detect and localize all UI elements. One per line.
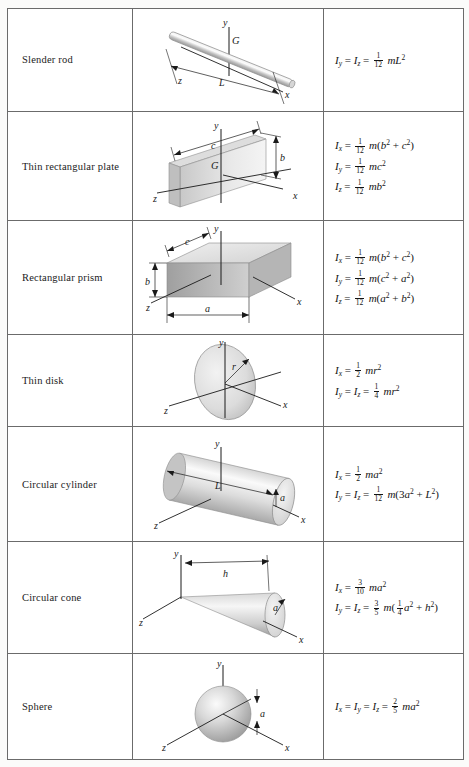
shape-name-label: Thin disk bbox=[8, 375, 132, 386]
formula-cell-circular-cone: Ix = 310 ma2 Iy = Iz = 35 m(14a2 + h2) bbox=[324, 542, 464, 654]
formula-line: Iz = 112 mb2 bbox=[335, 176, 459, 197]
svg-text:b: b bbox=[145, 276, 150, 287]
svg-text:y: y bbox=[214, 438, 220, 449]
formula-cell-rectangular-prism: Ix = 112 m(b2 + c2) Iy = 112 m(c2 + a2) … bbox=[324, 221, 464, 335]
shape-name-cell: Rectangular prism bbox=[8, 221, 133, 335]
figure-cell-thin-disk: y z x r bbox=[133, 335, 324, 427]
svg-text:y: y bbox=[213, 227, 219, 234]
shape-name-label: Sphere bbox=[8, 701, 132, 712]
svg-text:y: y bbox=[173, 548, 179, 559]
svg-text:y: y bbox=[216, 659, 222, 669]
formula-cell-slender-rod: Iy = Iz = 112 mL2 bbox=[324, 9, 464, 112]
figure-cell-circular-cylinder: y z x L a bbox=[133, 427, 324, 542]
svg-text:y: y bbox=[222, 17, 228, 28]
formula-line: Iy = 112 m(c2 + a2) bbox=[335, 268, 459, 289]
figure-cell-rectangular-prism: y z x c b bbox=[133, 221, 324, 335]
figure-cell-thin-rectangular-plate: y z x G c b bbox=[133, 111, 324, 220]
slender-rod-diagram: y z x G L bbox=[133, 14, 323, 106]
table-row: Sphere y z x bbox=[8, 653, 464, 759]
svg-text:y: y bbox=[213, 120, 219, 131]
svg-text:z: z bbox=[153, 520, 158, 531]
formula-line: Ix = 310 ma2 bbox=[335, 577, 459, 598]
shape-name-cell: Thin rectangular plate bbox=[8, 111, 133, 220]
svg-text:a: a bbox=[205, 303, 210, 314]
svg-text:r: r bbox=[232, 361, 236, 372]
svg-text:G: G bbox=[211, 160, 219, 171]
svg-text:x: x bbox=[300, 514, 306, 525]
table-row: Circular cylinder bbox=[8, 427, 464, 542]
svg-text:a: a bbox=[273, 602, 278, 613]
thin-rectangular-plate-diagram: y z x G c b bbox=[133, 117, 323, 215]
sphere-diagram: y z x a bbox=[133, 659, 323, 754]
shape-name-label: Circular cone bbox=[8, 592, 132, 603]
figure-cell-slender-rod: y z x G L bbox=[133, 9, 324, 112]
svg-text:z: z bbox=[161, 742, 166, 753]
shape-name-cell: Circular cone bbox=[8, 542, 133, 654]
svg-text:x: x bbox=[298, 634, 304, 645]
table-row: Slender rod y z x bbox=[8, 9, 464, 112]
svg-text:a: a bbox=[260, 708, 265, 719]
formula-line: Iy = Iz = 14 mr2 bbox=[335, 381, 459, 402]
table-row: Thin rectangular plate y z x bbox=[8, 111, 464, 220]
formula-line: Iy = Iz = 35 m(14a2 + h2) bbox=[335, 597, 459, 618]
svg-text:x: x bbox=[284, 742, 290, 753]
svg-text:z: z bbox=[152, 193, 157, 204]
shape-name-label: Thin rectangular plate bbox=[8, 161, 132, 172]
shape-name-label: Slender rod bbox=[8, 54, 132, 65]
formula-cell-thin-rectangular-plate: Ix = 112 m(b2 + c2) Iy = 112 mc2 Iz = 11… bbox=[324, 111, 464, 220]
svg-text:z: z bbox=[163, 405, 168, 416]
svg-text:y: y bbox=[218, 340, 224, 348]
svg-text:L: L bbox=[218, 77, 225, 88]
formula-line: Ix = Iy = Iz = 25 ma2 bbox=[335, 696, 459, 717]
svg-text:a: a bbox=[280, 492, 285, 503]
svg-text:z: z bbox=[177, 75, 182, 86]
svg-text:c: c bbox=[185, 236, 190, 247]
shape-name-cell: Sphere bbox=[8, 653, 133, 759]
svg-text:x: x bbox=[282, 399, 288, 410]
circular-cylinder-diagram: y z x L a bbox=[133, 433, 323, 536]
formula-line: Iy = 112 mc2 bbox=[335, 156, 459, 177]
shape-name-cell: Thin disk bbox=[8, 335, 133, 427]
figure-cell-circular-cone: y z x h a bbox=[133, 542, 324, 654]
formula-line: Ix = 12 mr2 bbox=[335, 360, 459, 381]
table-page: Slender rod y z x bbox=[0, 0, 469, 767]
thin-disk-diagram: y z x r bbox=[133, 340, 323, 422]
moment-of-inertia-table: Slender rod y z x bbox=[7, 8, 464, 760]
svg-text:x: x bbox=[284, 89, 290, 100]
formula-line: Iy = Iz = 112 mL2 bbox=[335, 50, 459, 71]
formula-line: Iz = 112 m(a2 + b2) bbox=[335, 288, 459, 309]
svg-text:x: x bbox=[292, 190, 298, 201]
table-row: Rectangular prism y bbox=[8, 221, 464, 335]
shape-name-cell: Circular cylinder bbox=[8, 427, 133, 542]
svg-text:L: L bbox=[214, 480, 221, 491]
circular-cone-diagram: y z x h a bbox=[133, 547, 323, 647]
svg-text:h: h bbox=[223, 568, 228, 579]
svg-text:b: b bbox=[280, 152, 285, 163]
shape-name-cell: Slender rod bbox=[8, 9, 133, 112]
formula-cell-thin-disk: Ix = 12 mr2 Iy = Iz = 14 mr2 bbox=[324, 335, 464, 427]
formula-line: Ix = 12 ma2 bbox=[335, 464, 459, 485]
svg-text:z: z bbox=[145, 302, 150, 313]
svg-text:G: G bbox=[232, 35, 240, 46]
svg-text:z: z bbox=[138, 617, 143, 628]
formula-line: Iy = Iz = 112 m(3a2 + L2) bbox=[335, 484, 459, 505]
rectangular-prism-diagram: y z x c b bbox=[133, 227, 323, 329]
table-row: Circular cone y bbox=[8, 542, 464, 654]
figure-cell-sphere: y z x a bbox=[133, 653, 324, 759]
shape-name-label: Rectangular prism bbox=[8, 272, 132, 283]
table-row: Thin disk y z x bbox=[8, 335, 464, 427]
formula-cell-sphere: Ix = Iy = Iz = 25 ma2 bbox=[324, 653, 464, 759]
svg-text:x: x bbox=[296, 296, 302, 307]
shape-name-label: Circular cylinder bbox=[8, 479, 132, 490]
formula-line: Ix = 112 m(b2 + c2) bbox=[335, 135, 459, 156]
formula-cell-circular-cylinder: Ix = 12 ma2 Iy = Iz = 112 m(3a2 + L2) bbox=[324, 427, 464, 542]
formula-line: Ix = 112 m(b2 + c2) bbox=[335, 247, 459, 268]
svg-text:c: c bbox=[211, 140, 216, 151]
